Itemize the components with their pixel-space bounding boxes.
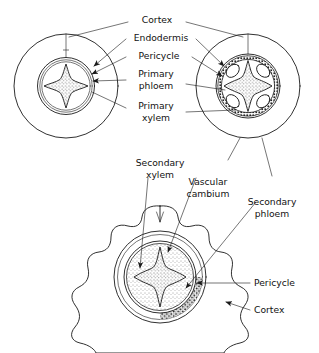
label-vascular-cambium-line2: cambium bbox=[187, 188, 230, 199]
early-secondary-growth-section bbox=[196, 34, 300, 138]
label-secondary-xylem-line2: xylem bbox=[146, 169, 174, 180]
label-cortex-bottom: Cortex bbox=[254, 304, 285, 315]
label-pericycle-top: Pericycle bbox=[139, 50, 180, 61]
label-primary-xylem-line1: Primary bbox=[138, 100, 174, 111]
label-primary-xylem-line2: xylem bbox=[142, 112, 170, 123]
label-primary-phloem-line2: phloem bbox=[139, 80, 173, 91]
label-cortex-top: Cortex bbox=[142, 14, 173, 25]
label-secondary-xylem-line1: Secondary bbox=[136, 157, 185, 168]
label-vascular-cambium-line1: Vascular bbox=[189, 176, 228, 187]
leader-right-section-drop bbox=[228, 138, 240, 160]
young-root-section bbox=[14, 34, 118, 138]
leader-cortex-right bbox=[186, 22, 243, 37]
root-anatomy-figure: Cortex Endodermis Pericycle Primary phlo… bbox=[0, 0, 319, 353]
label-secondary-phloem-line2: phloem bbox=[255, 208, 289, 219]
label-secondary-phloem-line1: Secondary bbox=[248, 196, 297, 207]
label-primary-phloem-line1: Primary bbox=[138, 68, 174, 79]
label-endodermis: Endodermis bbox=[134, 32, 189, 43]
late-secondary-growth-section bbox=[72, 206, 249, 353]
diagram-canvas: Cortex Endodermis Pericycle Primary phlo… bbox=[0, 0, 319, 353]
leader-secondary-phloem-drop bbox=[262, 138, 272, 176]
label-pericycle-bottom: Pericycle bbox=[254, 277, 295, 288]
leader-cortex-left bbox=[69, 22, 128, 37]
